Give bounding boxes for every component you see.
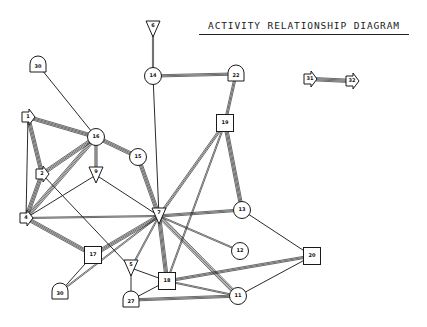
edge-7-12 [159,215,240,251]
node-label: 5 [129,261,133,267]
edge-4-17 [25,217,94,257]
node-label: 16 [93,133,100,139]
node-4[interactable]: 4 [20,210,33,226]
edge-19-13 [223,123,243,211]
node-16[interactable]: 16 [88,129,105,146]
node-17[interactable]: 17 [85,247,102,264]
node-27[interactable]: 27 [123,291,139,307]
node-label: 2 [40,170,44,176]
node-14[interactable]: 14 [145,68,162,85]
edges-layer [24,29,352,301]
node-label: 27 [128,298,135,304]
edge-13-20 [242,210,312,256]
edge-7-17 [92,215,160,257]
edge-7-30b [60,216,160,293]
node-label: 22 [233,72,240,78]
edge-14-7 [153,76,159,216]
node-label: 32 [349,77,356,83]
edge-1-16 [28,115,97,138]
edge-1-4 [26,117,28,218]
node-19[interactable]: 19 [217,115,234,132]
node-15[interactable]: 15 [130,149,147,166]
node-label: 12 [237,247,244,253]
node-30b[interactable]: 30 [52,283,68,299]
node-label: 14 [150,72,157,78]
node-label: 15 [135,153,142,159]
node-20[interactable]: 20 [304,248,321,265]
node-13[interactable]: 13 [234,202,251,219]
node-label: 13 [239,206,246,212]
node-label: 17 [90,251,97,257]
node-label: 4 [24,214,28,220]
node-32[interactable]: 32 [346,73,359,89]
edge-9-4 [26,175,96,218]
node-label: 9 [94,168,98,174]
node-30a[interactable]: 30 [30,56,46,72]
node-label: 30 [57,290,64,296]
edge-19-7 [158,122,226,216]
node-6[interactable]: 6 [146,21,160,37]
node-label: 7 [157,209,161,215]
edge-30a-16 [38,65,96,137]
node-label: 11 [235,292,242,298]
node-31[interactable]: 31 [304,71,317,87]
edge-9-7 [96,175,159,216]
edge-14-22 [153,73,236,77]
node-label: 20 [309,252,316,258]
edge-11-20 [238,256,312,296]
edge-4-7 [26,215,159,218]
activity-relationship-diagram: 614223019116152947131217518203027113132 [0,0,427,327]
edge-27-11 [131,295,238,301]
node-5[interactable]: 5 [124,260,138,276]
edge-7-13 [159,209,242,217]
edge-7-18 [157,216,168,281]
node-label: 6 [151,22,155,28]
node-22[interactable]: 22 [228,65,244,81]
node-label: 30 [35,63,42,69]
node-label: 18 [164,277,171,283]
node-12[interactable]: 12 [232,243,249,260]
node-label: 19 [222,119,229,125]
node-1[interactable]: 1 [22,109,35,125]
edge-19-18 [166,123,225,281]
node-18[interactable]: 18 [159,273,176,290]
node-label: 1 [26,113,30,119]
node-label: 31 [307,75,314,81]
node-9[interactable]: 9 [89,167,103,183]
node-11[interactable]: 11 [230,288,247,305]
